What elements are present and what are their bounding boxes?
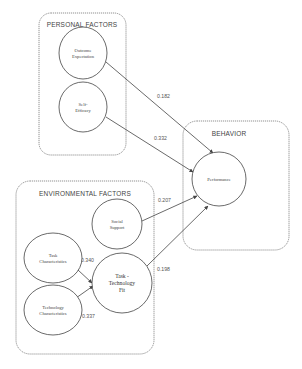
node-label: Self- xyxy=(79,102,88,107)
node-label: Characteristics xyxy=(39,259,67,264)
path-coefficient: 0.340 xyxy=(81,257,94,263)
group-title-environmental: ENVIRONMENTAL FACTORS xyxy=(39,190,131,197)
path-coefficient: 0.207 xyxy=(158,197,171,203)
path-coefficient: 0.332 xyxy=(154,135,167,141)
node-social: SocialSupport xyxy=(92,199,142,249)
node-performance: Performance xyxy=(192,152,246,206)
node-taskchar: TaskCharacteristics xyxy=(24,233,82,283)
path-coefficient: 0.337 xyxy=(82,313,95,319)
node-label: Expectation xyxy=(72,54,95,59)
node-label: Efficacy xyxy=(75,108,91,113)
node-label: Social xyxy=(111,219,123,224)
edge-ttf-to-performance: 0.198 xyxy=(147,206,208,272)
node-label: Support xyxy=(110,225,125,230)
group-title-behavior: BEHAVIOR xyxy=(212,130,247,137)
arrow-line xyxy=(76,286,93,298)
node-selfeff: Self-Efficacy xyxy=(59,82,107,132)
node-ttf: Task -TechnologyFit xyxy=(92,253,152,313)
node-label: Task xyxy=(49,253,58,258)
node-label: Task - xyxy=(115,273,129,279)
path-coefficient: 0.198 xyxy=(157,266,170,272)
node-label: Characteristics xyxy=(39,311,67,316)
node-label: Outcome xyxy=(75,48,92,53)
sct-performance-model-diagram: PERSONAL FACTORSBEHAVIORENVIRONMENTAL FA… xyxy=(0,0,302,369)
node-label: Fit xyxy=(119,287,126,293)
node-outcome: OutcomeExpectation xyxy=(59,27,107,79)
arrow-line xyxy=(78,270,92,283)
node-label: Performance xyxy=(207,177,230,182)
node-techchar: TechnologyCharacteristics xyxy=(24,285,82,335)
edge-social-to-performance: 0.207 xyxy=(142,196,197,221)
node-label: Technology xyxy=(109,280,136,286)
node-label: Technology xyxy=(42,305,64,310)
path-coefficient: 0.182 xyxy=(157,93,170,99)
